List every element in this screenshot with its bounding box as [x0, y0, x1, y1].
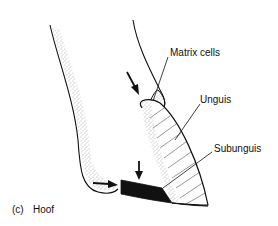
label-matrix-cells: Matrix cells: [170, 47, 220, 58]
hoof-diagram: Matrix cells Unguis Subunguis (c) Hoof: [0, 0, 278, 226]
panel-title: Hoof: [33, 204, 54, 215]
label-subunguis: Subunguis: [214, 143, 261, 154]
skin-stipple: [52, 28, 116, 190]
arrow-icon: [127, 72, 139, 95]
leader-unguis: [175, 104, 200, 140]
label-unguis: Unguis: [200, 94, 231, 105]
panel-label: (c): [12, 204, 24, 215]
arrow-down-icon: [135, 161, 143, 180]
